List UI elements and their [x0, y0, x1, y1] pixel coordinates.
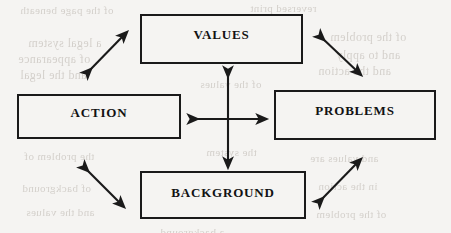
node-label-problems: PROBLEMS	[315, 104, 394, 117]
node-box-values: VALUES	[140, 14, 303, 64]
node-box-action: ACTION	[17, 94, 181, 139]
connector-action-values	[88, 35, 124, 72]
node-label-values: VALUES	[194, 28, 250, 41]
node-box-background: BACKGROUND	[140, 171, 306, 219]
connector-values-problems	[321, 37, 358, 72]
node-label-action: ACTION	[71, 106, 128, 119]
diagram-canvas: of the page beneathreversed printa legal…	[0, 0, 451, 233]
node-label-background: BACKGROUND	[171, 186, 274, 199]
node-box-problems: PROBLEMS	[274, 90, 436, 140]
connector-background-problems	[320, 162, 358, 201]
connector-action-background	[85, 168, 121, 204]
